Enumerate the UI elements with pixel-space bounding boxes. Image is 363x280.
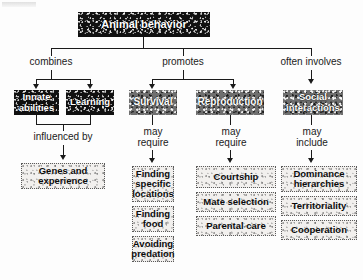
connector-spine-drop-combines <box>51 48 52 56</box>
node-avoiding-predation[interactable]: Avoiding predation <box>132 236 174 262</box>
node-genes-and-experience[interactable]: Genes and experience <box>21 163 105 189</box>
label-often-involves: often involves <box>268 56 354 67</box>
node-animal-behavior[interactable]: Animal behavior <box>78 12 210 37</box>
node-finding-specific-locations-label: Finding specific locations <box>132 169 174 200</box>
node-innate-abilities[interactable]: Innate abilities <box>14 90 59 115</box>
node-courtship[interactable]: Courtship <box>196 166 276 188</box>
node-cooperation-label: Cooperation <box>291 225 347 235</box>
connector-social-down <box>311 115 312 125</box>
node-finding-food-label: Finding food <box>136 209 170 230</box>
node-reproduction[interactable]: Reproduction <box>196 90 264 115</box>
connector-innate-down <box>36 115 37 124</box>
node-territoriality-label: Territoriality <box>292 201 347 211</box>
arrowhead-courtship <box>227 158 233 163</box>
node-survival[interactable]: Survival <box>129 90 177 115</box>
node-genes-and-experience-label: Genes and experience <box>38 166 88 187</box>
connector-spine-drop-promotes <box>183 48 184 56</box>
arrowhead-dominance-hierarchies <box>308 158 314 163</box>
connector-merge-stem <box>63 124 64 131</box>
label-may-include: may include <box>290 126 334 148</box>
node-dominance-hierarchies[interactable]: Dominance hierarchies <box>281 166 357 192</box>
arrowhead-finding-specific-locations <box>149 158 155 163</box>
connector-combines-fork <box>36 79 90 80</box>
connector-survival-down <box>152 115 153 125</box>
label-influenced-by: influenced by <box>18 131 108 142</box>
node-learning[interactable]: Learning <box>66 90 114 115</box>
node-cooperation[interactable]: Cooperation <box>281 220 357 240</box>
connector-main-spine <box>51 48 311 49</box>
node-parental-care-label: Parental care <box>206 221 266 231</box>
arrowhead-reproduction <box>230 84 236 89</box>
connector-spine-drop-often-involves <box>311 48 312 56</box>
node-mate-selection[interactable]: Mate selection <box>196 192 276 212</box>
arrowhead-genes-and-experience <box>60 155 66 160</box>
node-mate-selection-label: Mate selection <box>203 197 268 207</box>
node-finding-food[interactable]: Finding food <box>132 206 174 232</box>
scan-artifact <box>2 2 36 7</box>
label-combines: combines <box>11 56 91 67</box>
node-dominance-hierarchies-label: Dominance hierarchies <box>293 169 344 190</box>
node-avoiding-predation-label: Avoiding predation <box>131 239 174 260</box>
connector-root-stem <box>143 37 144 48</box>
node-parental-care[interactable]: Parental care <box>196 216 276 236</box>
arrowhead-survival <box>149 84 155 89</box>
arrowhead-innate-abilities <box>33 84 39 89</box>
concept-map-canvas: Animal behavior combines promotes often … <box>0 0 363 280</box>
node-courtship-label: Courtship <box>214 172 259 182</box>
label-may-require-survival: may require <box>131 126 175 148</box>
connector-promotes-fork <box>152 79 233 80</box>
connector-reproduction-down <box>230 115 231 125</box>
node-finding-specific-locations[interactable]: Finding specific locations <box>132 166 174 202</box>
arrowhead-social-interactions <box>308 79 314 84</box>
connector-promotes-stem <box>183 70 184 79</box>
connector-combines-stem <box>51 70 52 79</box>
connector-learning-down <box>90 115 91 124</box>
label-promotes: promotes <box>146 56 220 67</box>
node-social-interactions[interactable]: Social interactions <box>283 90 343 115</box>
label-may-require-reproduction: may require <box>209 126 253 148</box>
arrowhead-learning <box>87 84 93 89</box>
node-territoriality[interactable]: Territoriality <box>281 196 357 216</box>
